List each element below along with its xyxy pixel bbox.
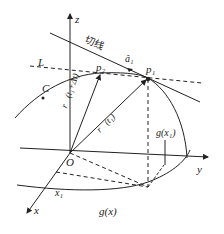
x-axis-label: x bbox=[34, 205, 39, 216]
y-axis bbox=[20, 148, 208, 157]
point-p1-dot bbox=[146, 77, 150, 81]
diagram-canvas: z y x O 切线 â₁ L C p₁ p₂ r⃗(t₁+Δt) r⃗(t₁)… bbox=[0, 0, 224, 234]
y-axis-label: y bbox=[197, 164, 202, 175]
line-L-label: L bbox=[38, 57, 44, 68]
x1-label: x₁ bbox=[55, 188, 63, 198]
origin-label: O bbox=[66, 157, 74, 168]
curve-C bbox=[15, 73, 187, 158]
curve-C-dot bbox=[42, 97, 45, 100]
g-x-label: g(x) bbox=[99, 206, 117, 217]
point-p2-label: p₂ bbox=[96, 62, 105, 73]
z-axis-label: z bbox=[75, 14, 79, 25]
g-x1-label: g(x₁) bbox=[156, 128, 176, 138]
secant-line-L bbox=[30, 66, 202, 83]
curve-C-label: C bbox=[42, 83, 49, 94]
unit-vector-label: â₁ bbox=[125, 54, 133, 64]
point-p1-label: p₁ bbox=[146, 64, 155, 75]
curve-g-x bbox=[17, 150, 190, 190]
